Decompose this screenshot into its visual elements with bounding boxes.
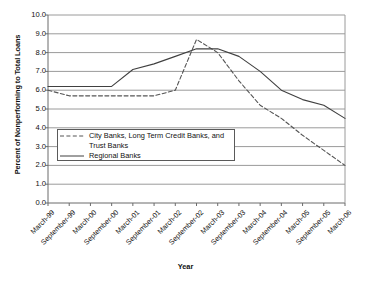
legend-item-regional-banks: Regional Banks — [58, 151, 234, 161]
chart-container: Percent of Nonperforming to Total Loans … — [0, 0, 371, 282]
legend-swatch-solid — [58, 151, 86, 161]
legend-item-city-banks: City Banks, Long Term Credit Banks, and — [58, 131, 234, 141]
legend-label-city-banks-line2: Trust Banks — [89, 141, 128, 151]
chart-legend: City Banks, Long Term Credit Banks, and … — [57, 129, 235, 161]
legend-swatch-dashed — [58, 131, 86, 141]
legend-label-regional-banks: Regional Banks — [89, 151, 141, 161]
x-axis-title: Year — [0, 262, 371, 271]
series-line-regional-banks — [48, 49, 345, 119]
legend-label-city-banks-line1: City Banks, Long Term Credit Banks, and — [89, 131, 224, 141]
legend-item-city-banks-cont: Trust Banks — [58, 141, 234, 151]
